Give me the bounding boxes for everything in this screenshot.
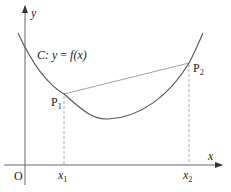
curve-c	[18, 33, 203, 119]
convex-function-diagram: y x O C: y = f(x) P1 P2 x1 x2	[0, 0, 231, 192]
point-p1-label: P1	[51, 95, 62, 111]
y-axis-label: y	[30, 6, 37, 20]
x1-tick-label: x1	[57, 168, 67, 184]
origin-label: O	[14, 169, 23, 183]
x2-tick-label: x2	[182, 168, 192, 184]
curve-equation: C: y = f(x)	[37, 48, 87, 62]
point-p2-label: P2	[193, 61, 204, 77]
chord-p1-p2	[64, 63, 189, 94]
x-axis-label: x	[207, 149, 214, 163]
